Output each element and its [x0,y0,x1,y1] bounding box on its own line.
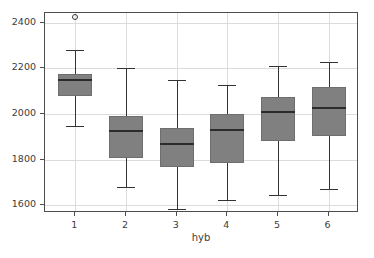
box-plot-item[interactable] [58,13,92,211]
box-iqr [312,87,346,135]
box-plot-item[interactable] [160,13,194,211]
x-axis-title: hyb [44,232,358,243]
cap-lower [168,209,186,210]
box-plot-item[interactable] [109,13,143,211]
median-line [261,111,295,113]
cap-upper [168,80,186,81]
box-iqr [261,97,295,141]
y-axis-tick-label: 2200 [2,61,36,72]
outlier-point [72,14,78,20]
cap-lower [117,187,135,188]
whisker-lower [278,141,279,195]
x-axis-tick-label: 2 [105,219,145,230]
x-axis-tick-label: 5 [257,219,297,230]
median-line [312,107,346,109]
x-axis-tick-label: 6 [308,219,348,230]
x-axis-tick [74,212,75,216]
x-axis-tick [125,212,126,216]
box-iqr [210,114,244,163]
x-axis-tick [277,212,278,216]
plot-area [44,12,358,212]
box-iqr [109,116,143,157]
median-line [109,130,143,132]
whisker-upper [329,62,330,88]
x-axis-tick-label: 1 [54,219,94,230]
cap-lower [269,195,287,196]
cap-lower [66,126,84,127]
whisker-lower [227,163,228,200]
cap-upper [66,50,84,51]
cap-upper [269,66,287,67]
whisker-lower [177,167,178,208]
whisker-upper [177,80,178,127]
y-axis-tick-label: 1800 [2,153,36,164]
y-axis-tick-label: 1600 [2,198,36,209]
box-iqr [58,74,92,97]
x-axis-tick [226,212,227,216]
x-axis-tick-label: 3 [156,219,196,230]
y-axis-tick-label: 2400 [2,16,36,27]
cap-upper [320,62,338,63]
x-axis-tick-label: 4 [206,219,246,230]
cap-upper [117,68,135,69]
plot-clip [45,13,357,211]
cap-upper [218,85,236,86]
whisker-lower [75,96,76,126]
boxplot-figure: 16001800200022002400 123456 hyb [0,0,374,258]
median-line [58,79,92,81]
median-line [210,129,244,131]
whisker-upper [75,50,76,74]
x-axis-tick [176,212,177,216]
whisker-lower [329,136,330,189]
box-plot-item[interactable] [210,13,244,211]
y-axis-tick-label: 2000 [2,107,36,118]
cap-lower [218,200,236,201]
whisker-upper [278,66,279,98]
box-plot-item[interactable] [312,13,346,211]
x-axis-tick [328,212,329,216]
whisker-upper [126,68,127,116]
box-iqr [160,128,194,168]
whisker-upper [227,85,228,114]
cap-lower [320,189,338,190]
box-plot-item[interactable] [261,13,295,211]
median-line [160,143,194,145]
whisker-lower [126,158,127,187]
